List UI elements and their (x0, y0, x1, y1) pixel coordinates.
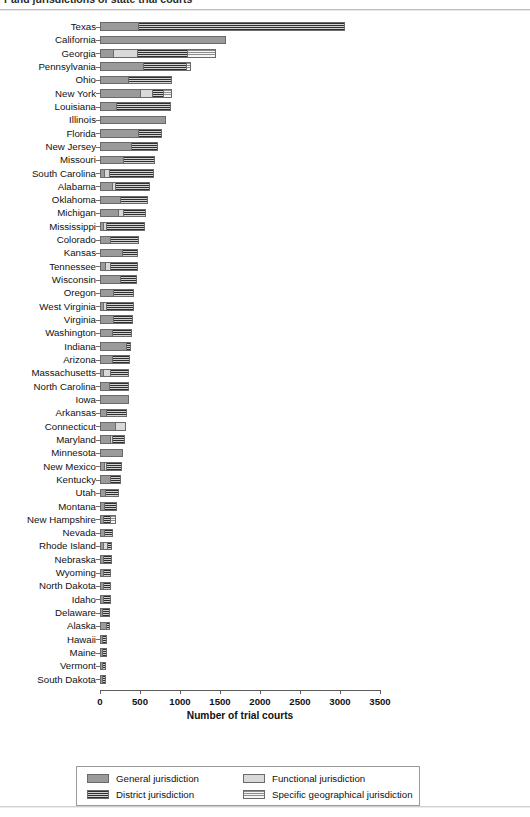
stacked-bar[interactable] (100, 369, 129, 378)
stacked-bar[interactable] (100, 156, 155, 165)
stacked-bar[interactable] (100, 315, 133, 324)
stacked-bar[interactable] (100, 116, 166, 125)
stacked-bar[interactable] (100, 569, 111, 578)
stacked-bar[interactable] (100, 555, 112, 564)
stacked-bar[interactable] (100, 662, 106, 671)
bar-segment-district (113, 289, 134, 298)
stacked-bar[interactable] (100, 169, 154, 178)
bar-row: Illinois (0, 113, 530, 126)
stacked-bar[interactable] (100, 89, 172, 98)
bar-row: Montana (0, 500, 530, 513)
bar-row-label: Utah (0, 486, 96, 499)
stacked-bar[interactable] (100, 275, 137, 284)
stacked-bar[interactable] (100, 502, 117, 511)
bar-row-label: Vermont (0, 659, 96, 672)
bar-row: Maryland (0, 433, 530, 446)
bar-row: Missouri (0, 153, 530, 166)
bar-segment-functional (140, 89, 152, 98)
stacked-bar[interactable] (100, 489, 119, 498)
stacked-bar[interactable] (100, 342, 131, 351)
x-axis-tick (140, 690, 141, 694)
bar-segment-general (100, 142, 131, 151)
stacked-bar[interactable] (100, 422, 126, 431)
bar-segment-district (123, 209, 146, 218)
bar-row: Tennessee (0, 260, 530, 273)
stacked-bar[interactable] (100, 289, 134, 298)
bar-row: Wisconsin (0, 273, 530, 286)
stacked-bar[interactable] (100, 355, 130, 364)
bar-row-label: New Mexico (0, 460, 96, 473)
legend-item-district: District jurisdiction (87, 788, 194, 801)
bar-segment-district (128, 76, 172, 85)
bar-row: Nevada (0, 526, 530, 539)
stacked-bar[interactable] (100, 608, 110, 617)
bar-row: Connecticut (0, 420, 530, 433)
bar-segment-general (100, 156, 123, 165)
bar-row-label: Mississippi (0, 220, 96, 233)
stacked-bar[interactable] (100, 142, 158, 151)
stacked-bar[interactable] (100, 262, 138, 271)
bar-segment-district (110, 369, 128, 378)
stacked-bar[interactable] (100, 475, 121, 484)
x-axis-tick-label: 1000 (160, 696, 200, 707)
x-axis-tick (380, 690, 381, 694)
stacked-bar[interactable] (100, 236, 139, 245)
stacked-bar[interactable] (100, 102, 171, 111)
bar-row: Vermont (0, 659, 530, 672)
stacked-bar[interactable] (100, 76, 172, 85)
bar-row-label: Maine (0, 646, 96, 659)
stacked-bar[interactable] (100, 648, 107, 657)
stacked-bar[interactable] (100, 622, 110, 631)
bar-segment-general (100, 475, 110, 484)
stacked-bar[interactable] (100, 395, 129, 404)
stacked-bar[interactable] (100, 129, 162, 138)
stacked-bar[interactable] (100, 382, 129, 391)
bar-segment-district (112, 329, 132, 338)
bar-segment-general (100, 275, 120, 284)
stacked-bar[interactable] (100, 196, 148, 205)
clipped-title-strip: r and jurisdictions of state trial court… (0, 0, 530, 9)
x-axis-tick (340, 690, 341, 694)
stacked-bar[interactable] (100, 302, 134, 311)
bar-row: Ohio (0, 73, 530, 86)
stacked-bar[interactable] (100, 675, 106, 684)
bar-segment-district (126, 342, 131, 351)
chart-legend: General jurisdiction District jurisdicti… (76, 766, 420, 806)
legend-swatch-general-icon (87, 774, 109, 783)
x-axis-tick (300, 690, 301, 694)
bar-segment-district (115, 182, 149, 191)
bar-segment-general (100, 435, 110, 444)
stacked-bar[interactable] (100, 635, 107, 644)
bar-row-label: Nebraska (0, 553, 96, 566)
stacked-bar[interactable] (100, 209, 146, 218)
bar-row: Pennsylvania (0, 60, 530, 73)
bar-segment-general (100, 129, 138, 138)
stacked-bar[interactable] (100, 515, 116, 524)
bar-row-label: West Virginia (0, 300, 96, 313)
bar-row-label: South Dakota (0, 673, 96, 686)
stacked-bar[interactable] (100, 595, 111, 604)
stacked-bar[interactable] (100, 22, 345, 31)
stacked-bar[interactable] (100, 36, 226, 45)
stacked-bar[interactable] (100, 49, 216, 58)
stacked-bar[interactable] (100, 529, 113, 538)
bar-row-label: Oklahoma (0, 193, 96, 206)
bar-segment-general (100, 36, 226, 45)
bar-row-label: Indiana (0, 340, 96, 353)
stacked-bar[interactable] (100, 449, 123, 458)
bar-segment-district (103, 569, 111, 578)
stacked-bar[interactable] (100, 62, 191, 71)
stacked-bar[interactable] (100, 435, 125, 444)
legend-label-general: General jurisdiction (116, 773, 199, 784)
stacked-bar[interactable] (100, 329, 132, 338)
stacked-bar[interactable] (100, 542, 112, 551)
stacked-bar[interactable] (100, 182, 150, 191)
stacked-bar[interactable] (100, 582, 111, 591)
bar-row: New Mexico (0, 460, 530, 473)
bar-row: Texas (0, 20, 530, 33)
stacked-bar[interactable] (100, 222, 145, 231)
stacked-bar[interactable] (100, 249, 138, 258)
stacked-bar[interactable] (100, 462, 122, 471)
stacked-bar[interactable] (100, 409, 127, 418)
x-axis-tick-label: 2500 (280, 696, 320, 707)
